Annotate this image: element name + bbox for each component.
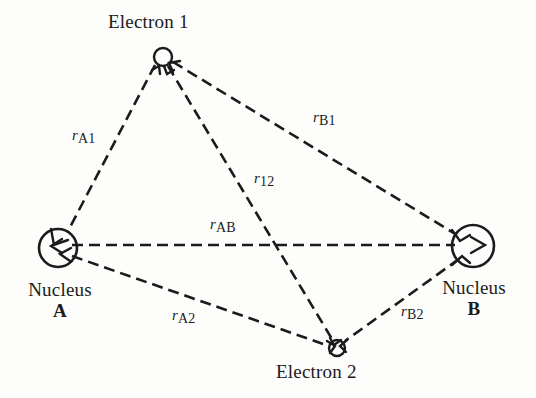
arrowhead-rB1-at-B xyxy=(452,230,470,241)
molecular-coordinate-diagram: Electron 1 Nucleus A Nucleus B Electron … xyxy=(0,0,536,398)
rB1-symbol: r xyxy=(313,109,319,125)
rA2-subscript: A2 xyxy=(178,311,196,326)
distance-label-rB1: rB1 xyxy=(313,111,336,129)
nucleus-a-label-text: Nucleus xyxy=(28,279,92,300)
distance-label-r12: r12 xyxy=(254,172,275,190)
arrowhead-rA2-at-A xyxy=(60,248,71,261)
electron-1-label: Electron 1 xyxy=(108,12,189,33)
edge-rA1 xyxy=(68,65,155,231)
edge-rA2 xyxy=(72,256,329,346)
rB2-subscript: B2 xyxy=(407,307,424,322)
nucleus-b-label-text: Nucleus xyxy=(442,277,506,298)
nucleus-a-label-letter: A xyxy=(10,301,110,322)
rB1-subscript: B1 xyxy=(319,113,336,128)
rAB-symbol: r xyxy=(210,216,216,232)
rA1-subscript: A1 xyxy=(78,131,96,146)
distance-label-rAB: rAB xyxy=(210,218,236,236)
rA1-symbol: r xyxy=(72,127,78,143)
rB2-symbol: r xyxy=(401,303,407,319)
nucleus-a-label: Nucleus A xyxy=(10,280,110,321)
distance-label-rA2: rA2 xyxy=(172,309,196,327)
rA2-symbol: r xyxy=(172,307,178,323)
nucleus-b-label-letter: B xyxy=(424,299,524,320)
nucleus-b-label: Nucleus B xyxy=(424,278,524,319)
electron-2-label: Electron 2 xyxy=(276,362,357,383)
edge-rB1 xyxy=(173,62,457,235)
rAB-subscript: AB xyxy=(216,220,236,235)
diagram-canvas xyxy=(0,0,536,398)
distance-label-rA1: rA1 xyxy=(72,129,96,147)
arrowhead-rAB-at-B xyxy=(471,237,485,253)
distance-label-rB2: rB2 xyxy=(401,305,424,323)
r12-symbol: r xyxy=(254,170,260,186)
electron-2-label-text: Electron 2 xyxy=(276,361,357,382)
r12-subscript: 12 xyxy=(260,174,275,189)
electron-1-label-text: Electron 1 xyxy=(108,11,189,32)
